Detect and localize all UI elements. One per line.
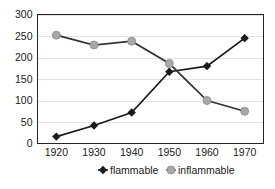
legend-marker-inflammable [167,166,175,174]
y-tick-label: 100 [15,94,33,106]
data-point-inflammable-1940 [128,37,136,45]
legend: flammableinflammable [98,164,235,176]
y-tick-label: 250 [15,30,33,42]
series-line-inflammable [56,35,244,111]
data-point-inflammable-1970 [241,107,249,115]
series-markers-group [52,31,249,141]
x-axis-tick-labels: 192019301940195019601970 [45,146,257,158]
y-tick-label: 150 [15,73,33,85]
y-tick-label: 0 [27,137,33,149]
legend-label-inflammable: inflammable [178,164,235,176]
y-tick-label: 200 [15,51,33,63]
data-point-inflammable-1920 [52,31,60,39]
x-tick-label: 1940 [120,146,144,158]
data-point-inflammable-1950 [165,60,173,68]
y-tick-label: 50 [21,116,33,128]
series-lines-group [56,35,244,136]
line-chart: 050100150200250300 192019301940195019601… [0,0,275,189]
x-tick-label: 1970 [233,146,257,158]
legend-marker-flammable [99,166,107,174]
data-point-inflammable-1960 [203,97,211,105]
chart-container: 050100150200250300 192019301940195019601… [0,0,275,189]
x-tick-label: 1920 [45,146,69,158]
data-point-flammable-1920 [52,132,60,140]
data-point-inflammable-1930 [90,41,98,49]
y-tick-label: 300 [15,8,33,20]
x-tick-label: 1930 [82,146,106,158]
y-axis-tick-labels: 050100150200250300 [15,8,33,149]
legend-label-flammable: flammable [110,164,159,176]
x-tick-label: 1960 [195,146,219,158]
x-tick-label: 1950 [158,146,182,158]
